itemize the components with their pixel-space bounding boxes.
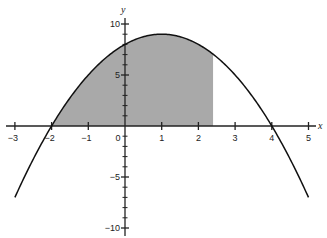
y-tick-label: −10 <box>105 223 120 233</box>
x-tick-label: 3 <box>233 133 238 143</box>
shaded-area <box>52 34 213 126</box>
parabola-chart: −3−2−1012345105−5−10 x y <box>0 0 327 238</box>
x-tick-label: 2 <box>196 133 201 143</box>
x-axis-label: x <box>317 120 323 131</box>
shaded-region <box>52 34 213 126</box>
y-tick-label: 10 <box>110 19 120 29</box>
y-tick-label: 5 <box>115 70 120 80</box>
x-tick-label: 5 <box>306 133 311 143</box>
x-tick-label: −2 <box>44 133 54 143</box>
y-axis-label: y <box>120 4 126 15</box>
x-tick-label: 4 <box>269 133 274 143</box>
x-tick-label: −3 <box>8 133 18 143</box>
x-tick-label: −1 <box>81 133 91 143</box>
x-tick-label: 1 <box>159 133 164 143</box>
y-tick-label: −5 <box>110 172 120 182</box>
x-tick-label: 0 <box>115 133 120 143</box>
